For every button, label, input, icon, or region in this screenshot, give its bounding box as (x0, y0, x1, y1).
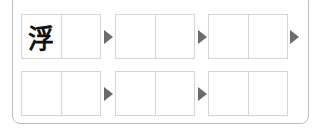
word-pair-4 (21, 71, 101, 116)
char-cell[interactable] (116, 72, 155, 115)
arrow-right-icon (104, 87, 113, 101)
arrow-right-icon (198, 87, 207, 101)
char-cell[interactable] (116, 15, 155, 58)
char-cell[interactable] (61, 72, 101, 115)
char-cell[interactable] (22, 72, 61, 115)
word-pair-2 (115, 14, 195, 59)
word-pair-6 (208, 71, 288, 116)
char-cell[interactable] (248, 72, 288, 115)
char-cell[interactable]: 浮 (22, 15, 61, 58)
word-pair-1: 浮 (21, 14, 101, 59)
arrow-right-icon (198, 30, 207, 44)
arrow-right-icon (290, 30, 299, 44)
arrow-right-icon (104, 30, 113, 44)
char-cell[interactable] (248, 15, 288, 58)
char-cell[interactable] (209, 15, 248, 58)
word-pair-3 (208, 14, 288, 59)
char-cell[interactable] (209, 72, 248, 115)
word-pair-5 (115, 71, 195, 116)
char-cell[interactable] (155, 15, 195, 58)
char-cell[interactable] (61, 15, 101, 58)
char-cell[interactable] (155, 72, 195, 115)
